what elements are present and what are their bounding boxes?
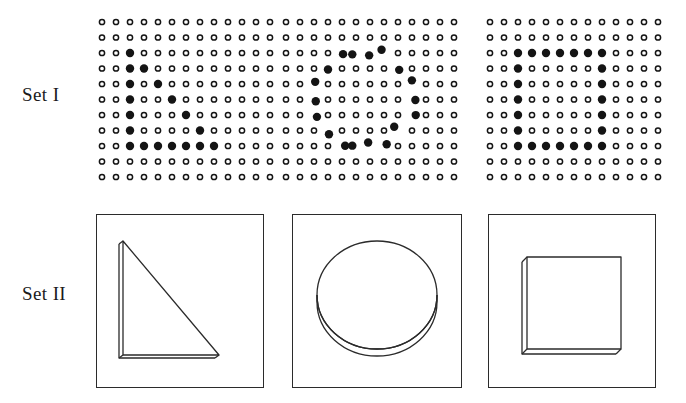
open-dot (239, 81, 244, 86)
open-dot (197, 174, 202, 179)
filled-dot (311, 78, 319, 86)
filled-dot (556, 142, 564, 150)
open-dot (451, 143, 456, 148)
square-br-bevel (616, 349, 621, 354)
open-dot (239, 35, 244, 40)
open-dot (155, 35, 160, 40)
open-dot (155, 19, 160, 24)
open-dot (571, 159, 576, 164)
filled-dot (365, 51, 373, 59)
open-dot (267, 81, 272, 86)
filled-dot (412, 111, 420, 119)
filled-dot (584, 49, 592, 57)
filled-dot (395, 66, 403, 74)
open-dot (339, 66, 344, 71)
open-dot (141, 19, 146, 24)
open-dot (253, 35, 258, 40)
open-dot (141, 174, 146, 179)
open-dot (325, 81, 330, 86)
open-dot (367, 66, 372, 71)
open-dot (543, 66, 548, 71)
open-dot (155, 66, 160, 71)
open-dot (501, 66, 506, 71)
square-front-face (527, 257, 621, 349)
open-dot (543, 159, 548, 164)
open-dot (253, 97, 258, 102)
open-dot (141, 159, 146, 164)
open-dot (239, 143, 244, 148)
open-dot (655, 128, 660, 133)
open-dot (437, 174, 442, 179)
open-dot (655, 174, 660, 179)
open-dot (267, 112, 272, 117)
open-dot (283, 19, 288, 24)
open-dot (655, 50, 660, 55)
open-dot (367, 128, 372, 133)
open-dot (183, 159, 188, 164)
open-dot (127, 19, 132, 24)
open-dot (627, 35, 632, 40)
open-dot (627, 81, 632, 86)
open-dot (655, 81, 660, 86)
open-dot (423, 174, 428, 179)
open-dot (113, 128, 118, 133)
open-dot (585, 112, 590, 117)
open-dot (141, 81, 146, 86)
open-dot (325, 143, 330, 148)
open-dot (381, 159, 386, 164)
filled-dot (598, 142, 606, 150)
open-dot (283, 159, 288, 164)
open-dot (543, 97, 548, 102)
open-dot (99, 50, 104, 55)
open-dot (225, 159, 230, 164)
open-dot (211, 81, 216, 86)
open-dot (571, 112, 576, 117)
open-dot (353, 19, 358, 24)
open-dot (613, 143, 618, 148)
open-dot (487, 97, 492, 102)
triangle-wedge-drawing (97, 215, 263, 387)
open-dot (283, 81, 288, 86)
filled-dot (168, 95, 176, 103)
open-dot (381, 66, 386, 71)
open-dot (627, 112, 632, 117)
open-dot (113, 50, 118, 55)
open-dot (543, 35, 548, 40)
open-dot (585, 19, 590, 24)
open-dot (367, 174, 372, 179)
open-dot (423, 81, 428, 86)
open-dot (557, 66, 562, 71)
open-dot (655, 159, 660, 164)
open-dot (283, 174, 288, 179)
open-dot (239, 159, 244, 164)
open-dot (311, 128, 316, 133)
open-dot (197, 112, 202, 117)
open-dot (225, 174, 230, 179)
open-dot (599, 174, 604, 179)
open-dot (409, 174, 414, 179)
open-dot (613, 128, 618, 133)
filled-dot (556, 49, 564, 57)
open-dot (297, 35, 302, 40)
open-dot (253, 19, 258, 24)
filled-dot (126, 95, 134, 103)
open-dot (311, 35, 316, 40)
open-dot (641, 128, 646, 133)
open-dot (339, 128, 344, 133)
open-dot (353, 174, 358, 179)
open-dot (451, 128, 456, 133)
open-dot (409, 35, 414, 40)
open-dot (585, 97, 590, 102)
disc-rim-lower (317, 302, 437, 356)
open-dot (585, 174, 590, 179)
open-dot (423, 35, 428, 40)
open-dot (155, 174, 160, 179)
open-dot (451, 97, 456, 102)
open-dot (409, 159, 414, 164)
open-dot (141, 112, 146, 117)
open-dot (655, 19, 660, 24)
open-dot (557, 174, 562, 179)
open-dot (641, 19, 646, 24)
open-dot (325, 159, 330, 164)
open-dot (113, 97, 118, 102)
